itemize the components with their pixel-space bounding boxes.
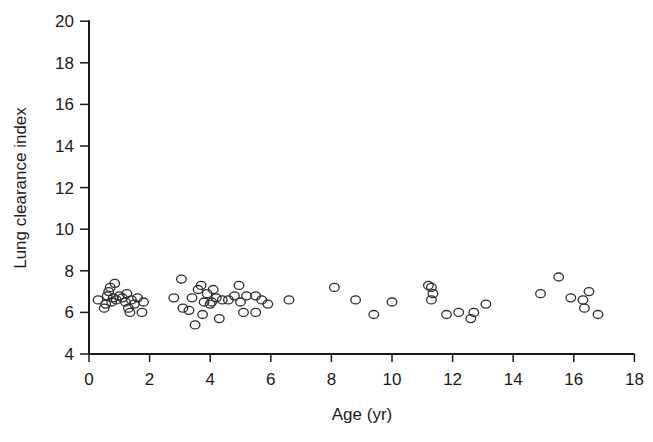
x-tick-label: 6 bbox=[266, 370, 275, 389]
scatter-chart: 468101214161820 024681012141618 Age (yr)… bbox=[0, 0, 653, 442]
data-point-marker bbox=[424, 281, 434, 289]
y-tick-label: 10 bbox=[55, 220, 74, 239]
y-tick-label: 16 bbox=[55, 95, 74, 114]
y-axis: 468101214161820 bbox=[55, 12, 89, 364]
data-point-marker bbox=[178, 304, 188, 312]
data-point-marker bbox=[284, 296, 294, 304]
data-point-marker bbox=[190, 321, 200, 329]
x-tick-label: 10 bbox=[383, 370, 402, 389]
data-point-marker bbox=[198, 311, 208, 319]
data-point-marker bbox=[387, 298, 397, 306]
data-point-marker bbox=[251, 308, 261, 316]
data-point-marker bbox=[251, 292, 261, 300]
y-tick-label: 18 bbox=[55, 54, 74, 73]
x-tick-label: 4 bbox=[205, 370, 214, 389]
x-tick-label: 18 bbox=[625, 370, 644, 389]
x-axis: 024681012141618 bbox=[84, 354, 644, 389]
data-point-marker bbox=[584, 288, 594, 296]
data-point-marker bbox=[351, 296, 361, 304]
data-point-marker bbox=[593, 311, 603, 319]
data-point-marker bbox=[169, 294, 179, 302]
y-tick-label: 14 bbox=[55, 137, 74, 156]
y-axis-title: Lung clearance index bbox=[11, 107, 30, 269]
x-tick-label: 14 bbox=[504, 370, 523, 389]
data-point-marker bbox=[257, 296, 267, 304]
y-tick-label: 4 bbox=[65, 345, 74, 364]
data-point-marker bbox=[536, 290, 546, 298]
data-point-marker bbox=[263, 300, 273, 308]
x-axis-title: Age (yr) bbox=[332, 405, 392, 424]
data-point-marker bbox=[242, 292, 252, 300]
data-point-marker bbox=[202, 290, 212, 298]
data-point-marker bbox=[234, 281, 244, 289]
data-point-marker bbox=[184, 306, 194, 314]
y-tick-label: 12 bbox=[55, 179, 74, 198]
data-points bbox=[93, 273, 603, 329]
data-point-marker bbox=[330, 283, 340, 291]
data-point-marker bbox=[139, 298, 149, 306]
data-point-marker bbox=[578, 296, 588, 304]
data-point-marker bbox=[554, 273, 564, 281]
data-point-marker bbox=[215, 315, 225, 323]
data-point-marker bbox=[208, 286, 218, 294]
x-tick-label: 12 bbox=[443, 370, 462, 389]
y-tick-label: 8 bbox=[65, 262, 74, 281]
data-point-marker bbox=[137, 308, 147, 316]
data-point-marker bbox=[442, 311, 452, 319]
data-point-marker bbox=[580, 304, 590, 312]
data-point-marker bbox=[454, 308, 464, 316]
data-point-marker bbox=[369, 311, 379, 319]
x-tick-label: 16 bbox=[564, 370, 583, 389]
data-point-marker bbox=[224, 296, 234, 304]
data-point-marker bbox=[481, 300, 491, 308]
y-tick-label: 6 bbox=[65, 303, 74, 322]
data-point-marker bbox=[187, 294, 197, 302]
data-point-marker bbox=[177, 275, 187, 283]
x-tick-label: 2 bbox=[145, 370, 154, 389]
data-point-marker bbox=[566, 294, 576, 302]
x-tick-label: 8 bbox=[327, 370, 336, 389]
data-point-marker bbox=[239, 308, 249, 316]
y-tick-label: 20 bbox=[55, 12, 74, 31]
x-tick-label: 0 bbox=[84, 370, 93, 389]
